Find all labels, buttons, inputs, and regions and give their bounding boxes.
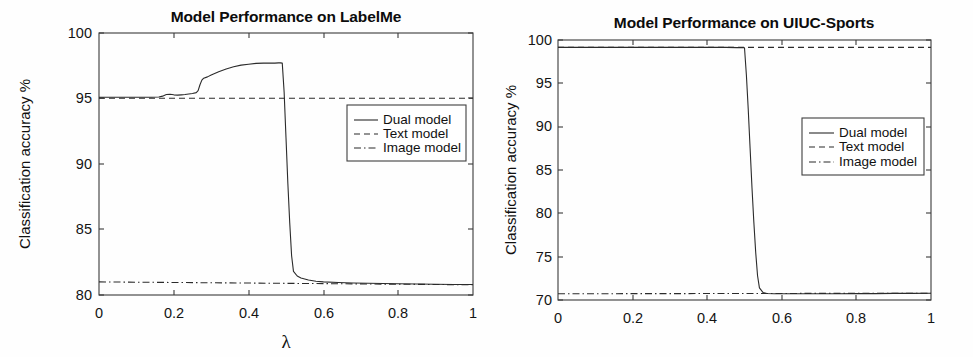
y-tick-label: 75 (536, 249, 552, 265)
chart-title-labelme: Model Performance on LabelMe (171, 8, 402, 25)
y-tick-labels-labelme: 100 95 90 85 80 (68, 25, 92, 303)
x-tick-label: 0 (554, 310, 562, 326)
chart-panel-uiuc-sports: Model Performance on UIUC-Sports Classif… (490, 0, 973, 357)
legend-labelme[interactable]: Dual model Text model Image model (347, 105, 466, 161)
y-tick-label: 100 (528, 32, 552, 48)
uiuc-sports-chart-svg: Model Performance on UIUC-Sports Classif… (490, 0, 973, 357)
plot-frame-labelme (99, 33, 473, 295)
x-tick-labels-uiuc-sports: 0 0.2 0.4 0.6 0.8 1 (554, 310, 935, 326)
x-tick-label: 0 (95, 305, 103, 321)
y-tick-label: 90 (536, 118, 552, 134)
y-tick-labels-uiuc-sports: 100 95 90 85 80 75 70 (528, 32, 552, 308)
x-tick-label: 0.4 (239, 305, 259, 321)
axis-ticks-labelme (99, 33, 473, 295)
series-group-labelme (99, 63, 473, 285)
x-tick-label: 1 (927, 310, 935, 326)
y-tick-label: 80 (76, 287, 92, 303)
x-axis-label-labelme: λ (281, 331, 291, 352)
series-path-dual-model (99, 63, 473, 285)
y-axis-label-labelme: Classification accuracy % (16, 79, 33, 249)
figure-root: Model Performance on LabelMe Classificat… (0, 0, 973, 357)
x-tick-label: 0.2 (623, 310, 643, 326)
chart-panel-labelme: Model Performance on LabelMe Classificat… (0, 0, 490, 357)
legend-label-dual-model: Dual model (839, 125, 907, 140)
chart-title-uiuc-sports: Model Performance on UIUC-Sports (614, 14, 874, 31)
y-tick-label: 85 (76, 221, 92, 237)
x-tick-label: 0.6 (772, 310, 792, 326)
legend-label-dual-model: Dual model (383, 112, 451, 127)
x-tick-label: 0.8 (846, 310, 866, 326)
y-tick-label: 70 (536, 292, 552, 308)
y-axis-label-uiuc-sports: Classification accuracy % (502, 85, 519, 255)
x-tick-labels-labelme: 0 0.2 0.4 0.6 0.8 1 (95, 305, 477, 321)
x-tick-label: 0.4 (697, 310, 717, 326)
x-tick-label: 0.8 (388, 305, 408, 321)
legend-label-image-model: Image model (839, 154, 917, 169)
x-tick-label: 1 (469, 305, 477, 321)
y-tick-label: 80 (536, 205, 552, 221)
labelme-chart-svg: Model Performance on LabelMe Classificat… (0, 0, 490, 357)
y-tick-label: 90 (76, 156, 92, 172)
legend-uiuc-sports[interactable]: Dual model Text model Image model (802, 118, 924, 175)
legend-label-text-model: Text model (839, 139, 904, 154)
y-tick-label: 85 (536, 162, 552, 178)
y-tick-label: 95 (76, 90, 92, 106)
x-tick-label: 0.2 (164, 305, 184, 321)
x-tick-label: 0.6 (314, 305, 334, 321)
y-tick-label: 100 (68, 25, 92, 41)
legend-label-image-model: Image model (383, 140, 461, 155)
y-tick-label: 95 (536, 75, 552, 91)
legend-label-text-model: Text model (383, 126, 448, 141)
